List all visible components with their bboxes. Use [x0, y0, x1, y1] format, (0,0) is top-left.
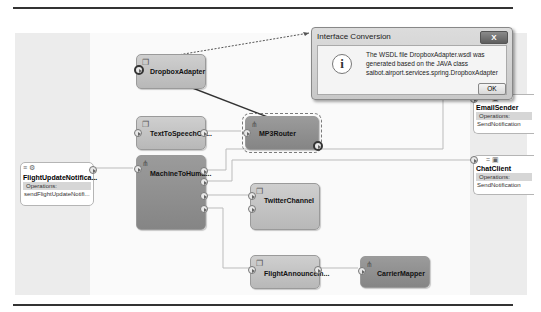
component-twitterchannel[interactable]: ❐ TwitterChannel [250, 183, 320, 230]
service-port[interactable] [134, 65, 144, 75]
component-label: MP3Router [259, 130, 296, 137]
service-port[interactable] [248, 205, 256, 213]
reference-port[interactable] [314, 266, 322, 274]
service-port[interactable] [358, 267, 366, 275]
component-mp3router[interactable]: ⋔ MP3Router [245, 116, 319, 150]
reference-chatclient[interactable]: = ▣ ChatClient Operations: SendNotificat… [473, 155, 534, 195]
service-port[interactable] [248, 192, 256, 200]
exposed-service-flightupdatenotification[interactable]: ≡ ⚙ FlightUpdateNotifica... Operations: … [20, 162, 94, 206]
operations-header: Operations: [476, 173, 532, 181]
service-name: FlightUpdateNotifica... [21, 173, 93, 182]
service-port[interactable] [248, 266, 256, 274]
operation-item[interactable]: sendFlightUpdateNotifi... [21, 190, 93, 198]
service-icon: ≡ ⚙ [21, 163, 93, 173]
spring-bean-icon: ❐ [256, 187, 263, 196]
service-port[interactable] [89, 166, 97, 174]
component-carriermapper[interactable]: ⋔ CarrierMapper [360, 256, 430, 288]
reference-port[interactable] [200, 167, 208, 175]
operations-header: Operations: [23, 182, 91, 190]
mediator-icon: ⋔ [142, 159, 149, 168]
reference-name: EmailSender [474, 103, 534, 112]
dialog-title: Interface Conversion [317, 32, 391, 41]
spring-bean-icon: ❐ [256, 259, 263, 268]
reference-port[interactable] [200, 205, 208, 213]
reference-port[interactable] [200, 192, 208, 200]
message-line: saibot.airport.services.spring.DropboxAd… [366, 68, 498, 77]
reference-name: ChatClient [474, 164, 534, 173]
bottom-rule [13, 304, 513, 306]
operations-header: Operations: [476, 112, 532, 120]
message-line: The WSDL file DropboxAdapter.wsdl was [366, 50, 498, 59]
close-button[interactable]: X [480, 31, 508, 44]
component-flightannouncement[interactable]: ❐ FlightAnnouncem... [250, 255, 320, 289]
operation-item[interactable]: SendNotification [474, 120, 534, 128]
service-port[interactable] [243, 129, 251, 137]
dialog-message: The WSDL file DropboxAdapter.wsdl was ge… [366, 50, 498, 77]
spring-bean-icon: ❐ [142, 120, 149, 129]
ok-button[interactable]: OK [478, 83, 506, 95]
top-rule [13, 7, 513, 9]
component-label: CarrierMapper [377, 270, 425, 277]
message-line: generated based on the JAVA class [366, 59, 498, 68]
service-port[interactable] [134, 129, 142, 137]
service-port[interactable] [134, 165, 142, 173]
reference-port[interactable] [200, 129, 208, 137]
reference-emailsender[interactable]: = ▣ EmailSender Operations: SendNotifica… [473, 94, 534, 134]
component-label: TwitterChannel [264, 197, 314, 204]
reference-port[interactable] [313, 141, 323, 151]
component-texttospeech[interactable]: ❐ TextToSpeechCo... [136, 116, 206, 150]
component-label: DropboxAdapter [150, 68, 205, 75]
operation-item[interactable]: SendNotification [474, 181, 534, 189]
info-icon: i [332, 54, 352, 74]
dialog-body: i The WSDL file DropboxAdapter.wsdl was … [317, 45, 507, 95]
interface-conversion-dialog: Interface Conversion X i The WSDL file D… [311, 27, 513, 100]
component-dropboxadapter[interactable]: ❐ DropboxAdapter [136, 54, 206, 89]
component-machinetohuman[interactable]: ⋔ MachineToHuma... [136, 155, 206, 230]
reference-port[interactable] [470, 156, 478, 164]
reference-port[interactable] [200, 178, 208, 186]
mediator-icon: ⋔ [251, 120, 258, 129]
spring-bean-icon: ❐ [142, 58, 149, 67]
reference-icon: = ▣ [474, 156, 534, 164]
mediator-icon: ⋔ [366, 260, 373, 269]
